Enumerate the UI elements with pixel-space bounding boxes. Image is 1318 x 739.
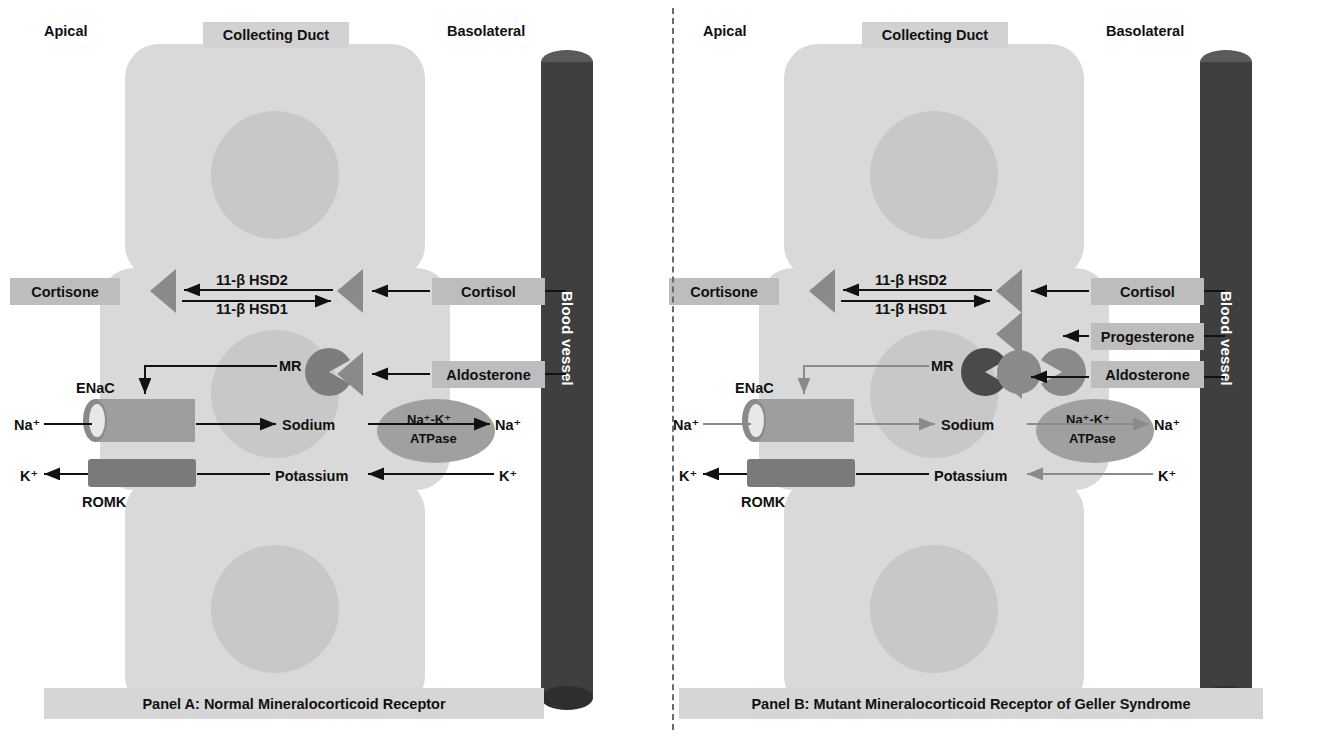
panel-a-arrows: [0, 0, 659, 739]
panel-a-caption: Panel A: Normal Mineralocorticoid Recept…: [44, 688, 544, 719]
panel-b: Blood vessel Apical Basolateral Collecti…: [659, 0, 1318, 739]
panel-b-caption: Panel B: Mutant Mineralocorticoid Recept…: [679, 688, 1263, 719]
panel-a: Blood vessel Apical Basolateral Collecti…: [0, 0, 659, 739]
panel-b-arrows: [659, 0, 1318, 739]
panel-divider: [672, 8, 674, 730]
figure-canvas: Blood vessel Apical Basolateral Collecti…: [0, 0, 1318, 739]
